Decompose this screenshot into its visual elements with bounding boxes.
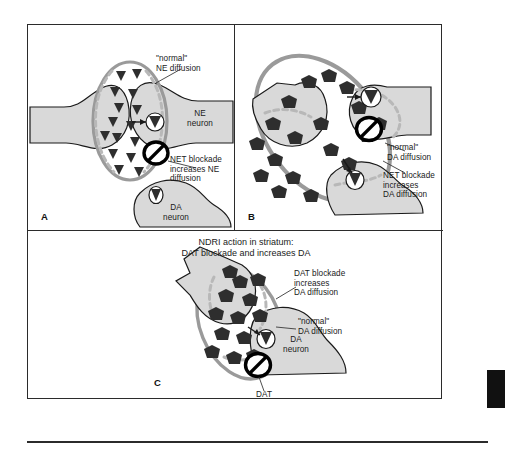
label-da-neuron: DA neuron xyxy=(156,203,196,222)
panel-letter-b: B xyxy=(248,211,255,222)
panel-c-title: NDRI action in striatum: DAT blockade an… xyxy=(136,237,356,259)
callout-dat-blockade-da: DAT blockade increases DA diffusion xyxy=(294,269,370,298)
callout-normal-ne-diffusion: "normal" NE diffusion xyxy=(156,54,234,73)
footer-rule xyxy=(27,441,488,443)
panel-a: "normal" NE diffusion NET blockade incre… xyxy=(28,25,235,230)
dat-blockade-symbol xyxy=(246,354,271,377)
callout-normal-da-diffusion: "normal" DA diffusion xyxy=(387,143,445,162)
label-ne-neuron: NE neuron xyxy=(180,109,220,128)
page-edge-marker xyxy=(487,370,505,408)
panel-letter-a: A xyxy=(41,211,48,222)
da-neuron-transporter xyxy=(149,187,163,204)
label-dat: DAT xyxy=(244,390,284,400)
callout-net-blockade-ne: NET blockade increases NE diffusion xyxy=(170,155,240,184)
net-blockade-symbol xyxy=(357,118,382,141)
figure-container: "normal" NE diffusion NET blockade incre… xyxy=(27,24,442,399)
panel-b: "normal" DA diffusion NET blockade incre… xyxy=(235,25,443,230)
label-da-neuron: DA neuron xyxy=(276,335,316,354)
callout-net-blockade-da: NET blockade increases DA diffusion xyxy=(383,171,445,200)
net-blockade-symbol xyxy=(144,142,168,164)
callout-normal-da-diffusion: "normal" DA diffusion xyxy=(298,317,360,336)
panel-c: NDRI action in striatum: DAT blockade an… xyxy=(28,230,443,400)
panel-letter-c: C xyxy=(154,377,161,388)
